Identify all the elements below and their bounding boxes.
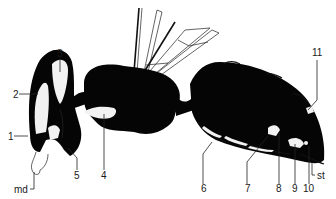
label-10: 10 xyxy=(303,183,315,194)
forewing-costa xyxy=(134,8,139,72)
label-4: 4 xyxy=(101,170,107,181)
leader-md xyxy=(30,172,34,189)
koschevnikov-gland xyxy=(304,141,308,145)
head xyxy=(29,50,81,175)
label-md: md xyxy=(14,184,28,195)
leader-st xyxy=(312,162,315,175)
label-9: 9 xyxy=(292,183,298,194)
abdomen xyxy=(190,62,324,164)
thorax-body xyxy=(84,65,180,134)
label-7: 7 xyxy=(245,183,251,194)
label-6: 6 xyxy=(201,183,207,194)
label-2: 2 xyxy=(13,89,19,100)
label-5: 5 xyxy=(74,170,80,181)
leader-6 xyxy=(203,142,212,184)
label-st: st xyxy=(317,170,325,181)
leader-11 xyxy=(308,60,317,110)
label-3: 3 xyxy=(57,48,63,59)
label-8: 8 xyxy=(276,183,282,194)
bee-gland-diagram: 1 2 3 4 5 6 7 8 9 10 11 md st xyxy=(0,0,336,199)
label-11: 11 xyxy=(312,47,323,58)
label-1: 1 xyxy=(8,131,14,142)
mandible xyxy=(31,152,48,175)
thorax xyxy=(84,65,180,134)
